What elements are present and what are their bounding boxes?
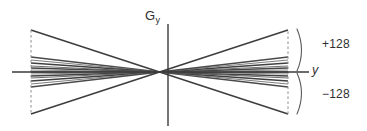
gradient-fan-figure: Gy y +128 −128 — [0, 0, 367, 131]
vertical-axis-label-main: G — [145, 8, 155, 23]
horizontal-axis-label: y — [312, 64, 318, 77]
positive-amplitude-label: +128 — [322, 38, 350, 50]
negative-amplitude-brace — [297, 73, 302, 114]
negative-amplitude-label: −128 — [322, 88, 350, 100]
vertical-axis-label-subscript: y — [156, 15, 161, 25]
positive-amplitude-brace — [297, 29, 302, 71]
vertical-axis-label: Gy — [145, 9, 160, 25]
